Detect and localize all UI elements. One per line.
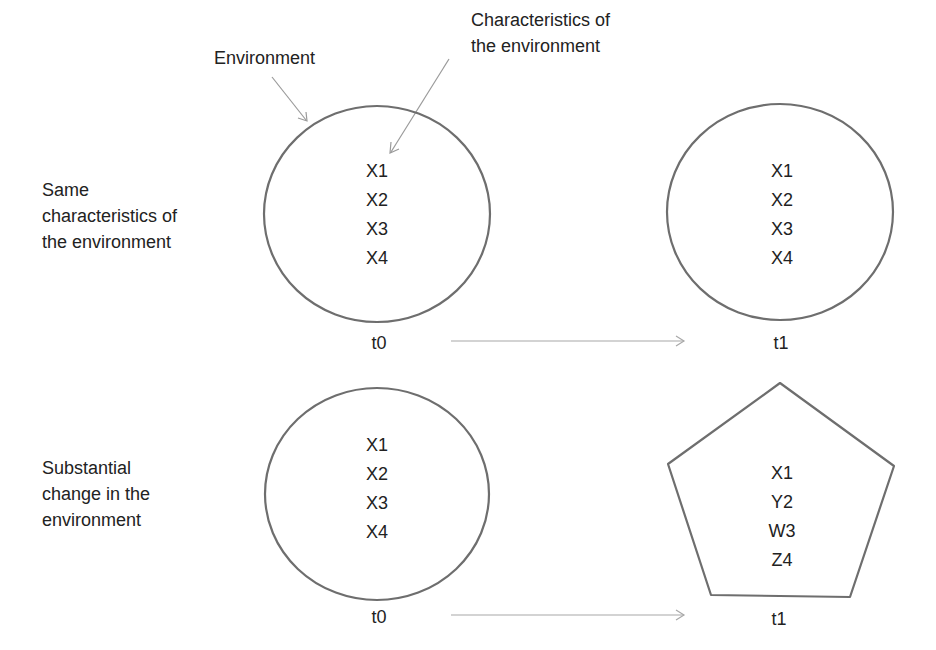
row1-t1-variables: X1 X2 X3 X4 — [742, 157, 822, 273]
row1-side-label-line: Same — [42, 177, 177, 203]
variable-label: W3 — [742, 517, 822, 546]
variable-label: Y2 — [742, 488, 822, 517]
variable-label: X1 — [337, 157, 417, 186]
characteristics-pointer-arrow — [390, 59, 449, 153]
row2-t0-variables: X1 X2 X3 X4 — [337, 431, 417, 547]
row1-t1-label: t1 — [761, 332, 801, 354]
variable-label: Z4 — [742, 546, 822, 575]
variable-label: X4 — [337, 518, 417, 547]
variable-label: X1 — [337, 431, 417, 460]
row2-side-label: Substantial change in the environment — [42, 455, 150, 533]
variable-label: X3 — [337, 215, 417, 244]
variable-label: X4 — [337, 244, 417, 273]
row2-t0-label: t0 — [359, 606, 399, 628]
row2-t1-variables: X1 Y2 W3 Z4 — [742, 459, 822, 575]
environment-annotation: Environment — [214, 46, 315, 70]
variable-label: X2 — [742, 186, 822, 215]
row2-side-label-line: environment — [42, 507, 150, 533]
row1-side-label-line: the environment — [42, 229, 177, 255]
characteristics-annotation-line1: Characteristics of — [471, 8, 610, 32]
row2-side-label-line: Substantial — [42, 455, 150, 481]
variable-label: X1 — [742, 157, 822, 186]
characteristics-annotation-line2: the environment — [471, 34, 600, 58]
time-arrow-row1 — [451, 336, 684, 346]
variable-label: X4 — [742, 244, 822, 273]
row1-side-label: Same characteristics of the environment — [42, 177, 177, 255]
row2-t1-label: t1 — [759, 608, 799, 630]
row1-side-label-line: characteristics of — [42, 203, 177, 229]
environment-pointer-arrow — [272, 77, 307, 121]
variable-label: X1 — [742, 459, 822, 488]
row1-t0-label: t0 — [359, 332, 399, 354]
row1-t0-variables: X1 X2 X3 X4 — [337, 157, 417, 273]
time-arrow-row2 — [451, 610, 684, 620]
variable-label: X3 — [742, 215, 822, 244]
variable-label: X3 — [337, 489, 417, 518]
variable-label: X2 — [337, 186, 417, 215]
row2-side-label-line: change in the — [42, 481, 150, 507]
variable-label: X2 — [337, 460, 417, 489]
